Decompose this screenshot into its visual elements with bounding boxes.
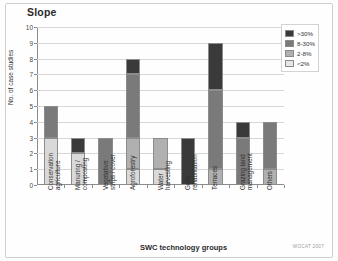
x-axis-label: Vegetative strips / cover <box>102 132 116 190</box>
x-axis-label: Gully rehabilitation <box>184 132 198 190</box>
x-axis-label: Others <box>266 132 273 190</box>
legend-label: 2-8% <box>297 50 311 57</box>
y-tick-label: 6 <box>29 87 33 94</box>
y-tick-label: 9 <box>29 39 33 46</box>
y-tick-label: 7 <box>29 71 33 78</box>
x-tick-mark <box>174 185 175 188</box>
y-tick-mark <box>34 106 37 107</box>
x-axis-label: Water harvesting <box>157 132 171 190</box>
x-tick-mark <box>257 185 258 188</box>
x-tick-mark <box>64 185 65 188</box>
y-tick-mark <box>34 138 37 139</box>
y-tick-mark <box>34 27 37 28</box>
x-axis-title: SWC technology groups <box>140 243 227 252</box>
y-tick-mark <box>34 122 37 123</box>
y-tick-label: 8 <box>29 55 33 62</box>
legend-label: 8-30% <box>297 40 315 47</box>
y-tick-label: 0 <box>29 182 33 189</box>
y-tick-mark <box>34 90 37 91</box>
y-tick-label: 3 <box>29 134 33 141</box>
chart-legend: >30%8-30%2-8%<2% <box>281 24 319 72</box>
legend-swatch-icon <box>285 50 294 57</box>
x-axis-label: Terraces <box>211 132 218 190</box>
x-tick-mark <box>202 185 203 188</box>
y-tick-label: 1 <box>29 166 33 173</box>
legend-label: <2% <box>297 60 310 67</box>
bar-segment[interactable] <box>126 74 140 137</box>
bar-segment[interactable] <box>126 59 140 75</box>
y-tick-label: 10 <box>26 24 33 31</box>
y-tick-mark <box>34 169 37 170</box>
y-tick-mark <box>34 59 37 60</box>
y-tick-label: 4 <box>29 118 33 125</box>
x-axis-label: Agroforestry <box>129 132 136 190</box>
y-tick-mark <box>34 74 37 75</box>
y-axis-title: No. of case studies <box>7 50 14 105</box>
legend-label: >30% <box>297 30 313 37</box>
x-tick-mark <box>147 185 148 188</box>
y-tick-label: 5 <box>29 103 33 110</box>
y-tick-label: 2 <box>29 150 33 157</box>
legend-item[interactable]: 8-30% <box>285 38 315 48</box>
y-tick-mark <box>34 43 37 44</box>
legend-item[interactable]: 2-8% <box>285 48 315 58</box>
chart-title: Slope <box>27 6 57 18</box>
legend-swatch-icon <box>285 60 294 67</box>
chart-credit: WOCAT 2007 <box>293 244 324 249</box>
bar-segment[interactable] <box>208 43 222 90</box>
legend-item[interactable]: >30% <box>285 28 315 38</box>
legend-swatch-icon <box>285 30 294 37</box>
x-tick-mark <box>92 185 93 188</box>
x-axis-label: Conservation agriculture <box>47 132 61 190</box>
x-tick-mark <box>119 185 120 188</box>
x-axis-label: Manuring / composting <box>74 132 88 190</box>
legend-swatch-icon <box>285 40 294 47</box>
y-tick-mark <box>34 153 37 154</box>
y-tick-mark <box>34 185 37 186</box>
slope-chart-card: Slope No. of case studies 012345678910 C… <box>0 0 338 261</box>
x-tick-mark <box>229 185 230 188</box>
x-axis-label: Grazing land management <box>239 132 253 190</box>
legend-item[interactable]: <2% <box>285 58 315 68</box>
x-tick-mark <box>284 185 285 188</box>
